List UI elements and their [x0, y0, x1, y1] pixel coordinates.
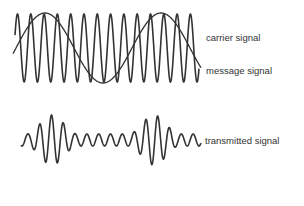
am-diagram: [0, 0, 304, 206]
transmitted-signal-label: transmitted signal: [205, 136, 279, 146]
transmitted-wave: [21, 115, 201, 164]
carrier-signal-label: carrier signal: [206, 33, 260, 43]
carrier-wave: [15, 14, 199, 82]
message-signal-label: message signal: [206, 66, 272, 76]
